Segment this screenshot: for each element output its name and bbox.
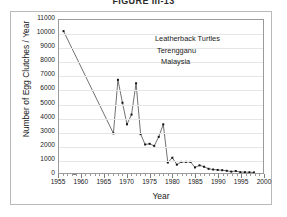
x-axis-tick-minor [63,174,64,176]
chart-annotation: Leatherback Turtles Terengganu Malaysia [155,33,220,68]
x-axis-tick-minor [72,174,73,176]
x-axis-tick-minor [209,174,210,176]
x-axis-tick-minor [227,174,228,176]
x-axis-tick-minor [259,174,260,176]
x-axis-tick-minor [159,174,160,176]
x-axis-tick-minor [232,174,233,176]
x-axis-tick-minor [163,174,164,176]
x-axis-tick-minor [223,174,224,176]
x-axis-tick-minor [85,174,86,176]
x-axis-tick-minor [255,174,256,176]
x-axis-tick-minor [177,174,178,176]
x-axis-tick-minor [118,174,119,176]
x-axis-tick-minor [108,174,109,176]
x-axis-tick-minor [122,174,123,176]
x-axis-tick-minor [131,174,132,176]
line-chart: Number of Egg Clutches / Year 0100020003… [0,0,287,217]
x-axis-tick-labels: 1955196019651970197519801985199019952000 [0,0,287,217]
annotation-line-region: Terengganu [155,45,220,57]
x-axis-title: Year [58,191,264,201]
x-axis-tick-minor [99,174,100,176]
x-axis-tick-minor [186,174,187,176]
x-axis-tick-minor [145,174,146,176]
x-axis-tick-minor [136,174,137,176]
annotation-line-species: Leatherback Turtles [155,33,220,45]
x-axis-tick-minor [95,174,96,176]
x-axis-tick-minor [250,174,251,176]
x-axis-tick-minor [246,174,247,176]
annotation-line-country: Malaysia [155,56,220,68]
x-axis-tick-minor [182,174,183,176]
x-axis-tick-minor [154,174,155,176]
x-axis-tick-minor [90,174,91,176]
x-axis-tick-minor [200,174,201,176]
x-axis-tick-minor [214,174,215,176]
x-axis-tick-minor [168,174,169,176]
x-axis-tick-label: 2000 [249,178,279,185]
x-axis-tick-minor [191,174,192,176]
x-axis-tick-minor [67,174,68,176]
x-axis-tick-minor [113,174,114,176]
x-axis-tick-minor [140,174,141,176]
x-axis-tick-minor [237,174,238,176]
x-axis-tick-minor [76,174,77,176]
x-axis-tick-minor [204,174,205,176]
